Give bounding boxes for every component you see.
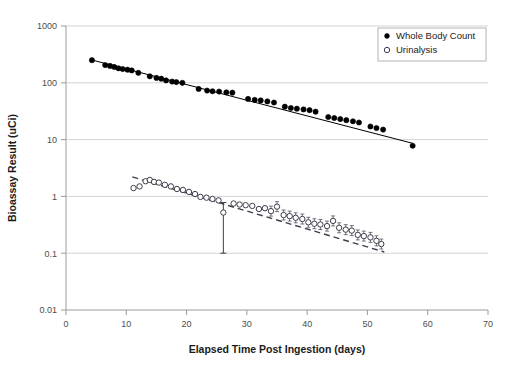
data-point bbox=[374, 238, 379, 243]
data-point bbox=[313, 109, 318, 114]
data-point bbox=[274, 204, 279, 209]
data-point bbox=[168, 184, 173, 189]
data-point bbox=[198, 194, 203, 199]
data-point bbox=[258, 98, 263, 103]
data-point bbox=[174, 79, 179, 84]
data-point bbox=[288, 105, 293, 110]
data-point bbox=[293, 215, 298, 220]
data-point bbox=[137, 184, 142, 189]
data-point bbox=[224, 90, 229, 95]
data-point bbox=[368, 124, 373, 129]
data-point bbox=[103, 62, 108, 67]
data-point bbox=[192, 191, 197, 196]
data-point bbox=[349, 228, 354, 233]
data-point bbox=[210, 89, 215, 94]
data-point bbox=[344, 118, 349, 123]
data-point bbox=[221, 210, 226, 215]
data-point bbox=[120, 66, 125, 71]
y-tick-label: 100 bbox=[42, 78, 57, 88]
data-point bbox=[381, 127, 386, 132]
y-tick-label: 1 bbox=[52, 192, 57, 202]
chart-legend: Whole Body CountUrinalysis bbox=[378, 28, 486, 61]
x-axis-title: Elapsed Time Post Ingestion (days) bbox=[189, 343, 366, 355]
legend-label: Whole Body Count bbox=[396, 30, 476, 41]
data-point bbox=[265, 99, 270, 104]
data-point bbox=[306, 220, 311, 225]
data-point bbox=[245, 96, 250, 101]
data-point bbox=[332, 115, 337, 120]
x-tick-label: 20 bbox=[182, 319, 192, 329]
data-point bbox=[204, 195, 209, 200]
data-point bbox=[196, 86, 201, 91]
data-point bbox=[162, 182, 167, 187]
data-point bbox=[237, 202, 242, 207]
data-point bbox=[312, 221, 317, 226]
legend-marker-filled-circle bbox=[385, 34, 390, 39]
data-point bbox=[156, 180, 161, 185]
data-point bbox=[307, 108, 312, 113]
x-tick-label: 40 bbox=[302, 319, 312, 329]
data-point bbox=[217, 89, 222, 94]
data-point bbox=[147, 74, 152, 79]
data-point bbox=[131, 185, 136, 190]
bioassay-chart: 010203040506070 0.010.11101001000 Whole … bbox=[0, 0, 509, 368]
data-point bbox=[129, 68, 134, 73]
data-point bbox=[186, 189, 191, 194]
data-point bbox=[163, 78, 168, 83]
data-point bbox=[336, 225, 341, 230]
x-tick-label: 50 bbox=[362, 319, 372, 329]
y-tick-label: 0.01 bbox=[39, 305, 57, 315]
legend-marker-open-circle bbox=[384, 47, 389, 52]
data-point bbox=[379, 241, 384, 246]
data-point bbox=[368, 235, 373, 240]
data-point bbox=[330, 218, 335, 223]
data-point bbox=[338, 116, 343, 121]
data-point bbox=[216, 198, 221, 203]
data-point bbox=[154, 75, 159, 80]
data-point bbox=[271, 100, 276, 105]
data-point bbox=[256, 206, 261, 211]
chart-canvas: 010203040506070 0.010.11101001000 Whole … bbox=[0, 0, 509, 368]
data-point bbox=[355, 232, 360, 237]
data-point bbox=[262, 205, 267, 210]
data-point bbox=[268, 208, 273, 213]
data-point bbox=[361, 233, 366, 238]
data-point bbox=[374, 125, 379, 130]
x-tick-label: 10 bbox=[121, 319, 131, 329]
data-point bbox=[89, 58, 94, 63]
data-point bbox=[174, 186, 179, 191]
data-point bbox=[301, 107, 306, 112]
data-point bbox=[350, 119, 355, 124]
data-point bbox=[159, 76, 164, 81]
y-tick-label: 10 bbox=[47, 135, 57, 145]
data-point bbox=[326, 114, 331, 119]
data-point bbox=[318, 222, 323, 227]
x-tick-label: 70 bbox=[483, 319, 493, 329]
data-point bbox=[231, 201, 236, 206]
data-point bbox=[210, 196, 215, 201]
data-point bbox=[356, 120, 361, 125]
data-point bbox=[281, 212, 286, 217]
data-point bbox=[204, 88, 209, 93]
x-tick-label: 60 bbox=[423, 319, 433, 329]
x-tick-label: 30 bbox=[242, 319, 252, 329]
data-point bbox=[282, 104, 287, 109]
data-point bbox=[230, 90, 235, 95]
data-point bbox=[287, 213, 292, 218]
data-point bbox=[343, 227, 348, 232]
data-point bbox=[180, 187, 185, 192]
data-point bbox=[324, 223, 329, 228]
data-point bbox=[136, 70, 141, 75]
data-point bbox=[410, 143, 415, 148]
x-tick-label: 0 bbox=[63, 319, 68, 329]
data-point bbox=[180, 80, 185, 85]
legend-label: Urinalysis bbox=[396, 44, 437, 55]
data-point bbox=[243, 202, 248, 207]
data-point bbox=[294, 106, 299, 111]
y-tick-label: 0.1 bbox=[44, 249, 57, 259]
data-point bbox=[250, 203, 255, 208]
data-point bbox=[252, 97, 257, 102]
data-point bbox=[300, 216, 305, 221]
y-tick-label: 1000 bbox=[37, 21, 57, 31]
y-axis-title: Bioassay Result (uCi) bbox=[6, 114, 18, 222]
